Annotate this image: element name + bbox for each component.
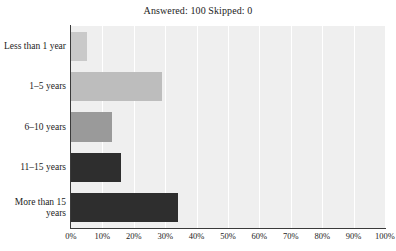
tick-label-70: 70% (283, 231, 299, 241)
bar-1 (71, 32, 87, 61)
bar-row (71, 72, 385, 101)
y-axis-line (70, 25, 71, 229)
bar-2 (71, 72, 162, 101)
survey-bar-chart: Answered: 100 Skipped: 0 Less than 1 yea… (0, 0, 396, 251)
tick-label-100: 100% (375, 231, 395, 241)
bar-row (71, 153, 385, 182)
tick-label-20: 20% (126, 231, 142, 241)
tick-label-50: 50% (220, 231, 236, 241)
bar-4 (71, 153, 121, 182)
tick-label-10: 10% (95, 231, 111, 241)
bar-row (71, 112, 385, 141)
category-label: 11–15 years (0, 162, 66, 173)
tick-label-30: 30% (157, 231, 173, 241)
bar-5 (71, 193, 178, 222)
gridline-100 (385, 26, 386, 228)
tick-label-0: 0% (65, 231, 76, 241)
category-label: More than 15 years (0, 197, 66, 219)
x-axis-line (70, 228, 386, 229)
bar-3 (71, 112, 112, 141)
category-label: 1–5 years (0, 81, 66, 92)
category-label: Less than 1 year (0, 41, 66, 52)
bar-row (71, 193, 385, 222)
bar-row (71, 32, 385, 61)
chart-title: Answered: 100 Skipped: 0 (0, 5, 396, 16)
plot-area (71, 26, 385, 228)
category-label: 6–10 years (0, 122, 66, 133)
tick-label-60: 60% (252, 231, 268, 241)
tick-label-40: 40% (189, 231, 205, 241)
tick-label-80: 80% (314, 231, 330, 241)
tick-label-90: 90% (346, 231, 362, 241)
